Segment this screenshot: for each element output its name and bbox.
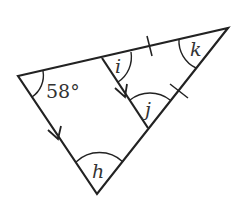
angle-label-i: i xyxy=(115,55,121,77)
angle-label-58: 58° xyxy=(46,80,80,102)
triangle-figure: 58° h i j k xyxy=(0,0,238,206)
angle-label-j: j xyxy=(141,98,151,120)
angle-label-h: h xyxy=(92,160,104,182)
angle-label-k: k xyxy=(190,38,202,60)
geometry-diagram: 58° h i j k xyxy=(0,0,238,206)
tick-mark-right xyxy=(170,84,188,98)
parallel-arrow-left xyxy=(48,126,61,139)
angle-arc-58 xyxy=(32,71,43,97)
